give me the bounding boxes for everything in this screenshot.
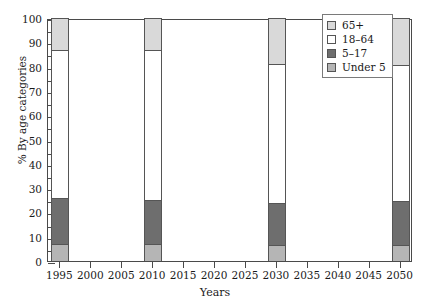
- bar-segment: [145, 18, 161, 50]
- bar-segment: [52, 18, 68, 50]
- x-axis-tick-mark: [90, 262, 91, 268]
- y-axis-tick-label: 10: [29, 232, 42, 243]
- bar-segment: [393, 201, 409, 245]
- bar-2030: [268, 18, 286, 261]
- y-axis-tick-label: 0: [35, 257, 42, 268]
- x-axis-tick-label: 2020: [201, 270, 228, 281]
- y-axis-tick-label: 60: [29, 111, 42, 122]
- x-axis-tick-mark: [152, 262, 153, 268]
- x-axis-tick-label: 2030: [263, 270, 290, 281]
- bar-segment: [393, 65, 409, 201]
- bar-segment: [269, 245, 285, 261]
- legend-swatch-icon: [327, 63, 336, 72]
- y-axis-tick-labels: 0102030405060708090100: [0, 19, 42, 262]
- legend-swatch-icon: [327, 49, 336, 58]
- bar-segment: [145, 200, 161, 244]
- x-axis-tick-mark: [400, 262, 401, 268]
- bar-2050: [392, 18, 410, 261]
- x-axis-title: Years: [0, 286, 430, 299]
- x-axis-tick-label: 2045: [355, 270, 382, 281]
- legend-item-label: 5–17: [342, 48, 367, 59]
- x-axis-tick-label: 2040: [324, 270, 351, 281]
- x-axis-tick-mark: [307, 262, 308, 268]
- bar-segment: [269, 18, 285, 64]
- y-axis-tick-label: 80: [29, 62, 42, 73]
- legend-swatch-icon: [327, 21, 336, 30]
- chart-legend: 65+18–645–17Under 5: [322, 14, 393, 78]
- bar-segment: [393, 18, 409, 65]
- y-axis-tick-label: 100: [22, 14, 42, 25]
- bar-segment: [269, 203, 285, 246]
- x-axis-tick-label: 2010: [139, 270, 166, 281]
- legend-item: Under 5: [327, 60, 386, 74]
- x-axis-tick-label: 2005: [108, 270, 135, 281]
- chart-figure: % By age categories 01020304050607080901…: [0, 0, 430, 301]
- bar-segment: [393, 245, 409, 261]
- x-axis-tick-label: 2025: [232, 270, 259, 281]
- bar-segment: [269, 64, 285, 203]
- bar-segment: [145, 244, 161, 261]
- legend-item-label: 65+: [342, 20, 364, 31]
- x-axis-tick-label: 2015: [170, 270, 197, 281]
- x-axis-tick-label: 1995: [46, 270, 73, 281]
- y-axis-tick-label: 40: [29, 160, 42, 171]
- x-axis-tick-label: 2050: [386, 270, 413, 281]
- legend-item: 65+: [327, 18, 386, 32]
- x-axis-tick-mark: [245, 262, 246, 268]
- x-axis-tick-mark: [338, 262, 339, 268]
- x-axis-tick-label: 2035: [293, 270, 320, 281]
- legend-item: 18–64: [327, 32, 386, 46]
- y-axis-tick-label: 20: [29, 208, 42, 219]
- x-axis-tick-mark: [59, 262, 60, 268]
- x-axis-tick-mark: [214, 262, 215, 268]
- bar-1995: [51, 18, 69, 261]
- x-axis-tick-label: 2000: [77, 270, 104, 281]
- y-axis-tick-label: 70: [29, 87, 42, 98]
- y-axis-tick-label: 30: [29, 184, 42, 195]
- legend-item: 5–17: [327, 46, 386, 60]
- bar-segment: [52, 50, 68, 198]
- x-axis-tick-labels: 1995200020052010201520202025203020352040…: [47, 270, 412, 284]
- legend-swatch-icon: [327, 35, 336, 44]
- legend-item-label: Under 5: [342, 62, 386, 73]
- x-axis-tick-mark: [276, 262, 277, 268]
- y-axis-tick-label: 50: [29, 135, 42, 146]
- bar-segment: [52, 244, 68, 261]
- x-axis-tick-mark: [369, 262, 370, 268]
- bar-2010: [144, 18, 162, 261]
- y-axis-tick-label: 90: [29, 38, 42, 49]
- bar-segment: [145, 50, 161, 201]
- legend-item-label: 18–64: [342, 34, 374, 45]
- x-axis-tick-mark: [183, 262, 184, 268]
- bar-segment: [52, 198, 68, 244]
- x-axis-tick-mark: [121, 262, 122, 268]
